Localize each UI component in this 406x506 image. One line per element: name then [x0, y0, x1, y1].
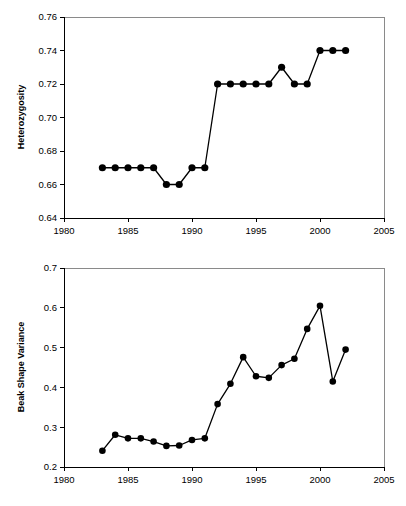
- x-tick-label: 2005: [373, 225, 394, 236]
- data-point-marker: [189, 437, 196, 444]
- y-tick-label: 0.74: [39, 45, 58, 56]
- x-tick-label: 1995: [245, 474, 266, 485]
- data-point-marker: [227, 381, 234, 388]
- y-axis-title-beak-shape-variance: Beak Shape Variance: [16, 322, 26, 413]
- data-point-marker: [201, 164, 208, 171]
- data-point-marker: [278, 362, 285, 369]
- y-tick-label: 0.3: [44, 422, 57, 433]
- data-point-marker: [252, 80, 259, 87]
- data-point-marker: [150, 438, 157, 445]
- data-point-marker: [112, 431, 119, 438]
- figure-two-panel-timeseries: 0.640.660.680.700.720.740.76 19801985199…: [0, 0, 406, 506]
- x-tick-label: 1990: [181, 225, 202, 236]
- series-markers-heterozygosity: [99, 47, 349, 188]
- series-line-heterozygosity: [102, 51, 345, 185]
- x-tick-label: 2000: [309, 225, 330, 236]
- data-point-marker: [112, 164, 119, 171]
- data-point-marker: [99, 447, 106, 454]
- y-tick-label: 0.66: [39, 179, 58, 190]
- chart-panel-heterozygosity: 0.640.660.680.700.720.740.76 19801985199…: [0, 0, 406, 250]
- data-point-marker: [176, 442, 183, 449]
- data-point-marker: [342, 47, 349, 54]
- beak-shape-variance-svg: 0.20.30.40.50.60.7 198019851990199520002…: [0, 255, 406, 506]
- data-point-marker: [240, 80, 247, 87]
- data-point-marker: [176, 181, 183, 188]
- y-tick-label: 0.68: [39, 145, 58, 156]
- data-point-marker: [227, 80, 234, 87]
- series-markers-beak-shape-variance: [99, 303, 349, 454]
- data-point-marker: [316, 47, 323, 54]
- y-axis-title-heterozygosity: Heterozygosity: [16, 85, 26, 150]
- y-tick-label: 0.70: [39, 112, 58, 123]
- x-tick-label: 1995: [245, 225, 266, 236]
- data-point-marker: [329, 47, 336, 54]
- y-tick-label: 0.5: [44, 342, 57, 353]
- y-tick-group-bottom: 0.20.30.40.50.60.7: [44, 262, 64, 472]
- y-tick-label: 0.72: [39, 78, 58, 89]
- data-point-marker: [265, 80, 272, 87]
- data-point-marker: [214, 80, 221, 87]
- y-tick-label: 0.6: [44, 302, 57, 313]
- x-tick-group-top: 198019851990199520002005: [53, 218, 394, 236]
- y-tick-label: 0.7: [44, 262, 57, 273]
- caption-strip: [0, 494, 406, 506]
- x-tick-label: 2000: [309, 474, 330, 485]
- x-tick-label: 1990: [181, 474, 202, 485]
- data-point-marker: [304, 80, 311, 87]
- data-point-marker: [163, 443, 170, 450]
- data-point-marker: [240, 354, 247, 361]
- data-point-marker: [317, 303, 324, 310]
- data-point-marker: [342, 346, 349, 353]
- data-point-marker: [99, 164, 106, 171]
- x-tick-label: 1980: [53, 474, 74, 485]
- data-point-marker: [150, 164, 157, 171]
- data-point-marker: [137, 164, 144, 171]
- data-point-marker: [163, 181, 170, 188]
- data-point-marker: [188, 164, 195, 171]
- x-tick-label: 1980: [53, 225, 74, 236]
- data-point-marker: [253, 373, 260, 380]
- y-tick-label: 0.76: [39, 11, 58, 22]
- data-point-marker: [138, 435, 145, 442]
- data-point-marker: [291, 80, 298, 87]
- x-tick-group-bottom: 198019851990199520002005: [53, 467, 394, 485]
- x-tick-label: 2005: [373, 474, 394, 485]
- data-point-marker: [214, 401, 221, 408]
- y-tick-label: 0.64: [39, 212, 58, 223]
- data-point-marker: [304, 326, 311, 333]
- data-point-marker: [266, 375, 273, 382]
- y-tick-label: 0.2: [44, 461, 57, 472]
- heterozygosity-svg: 0.640.660.680.700.720.740.76 19801985199…: [0, 0, 406, 250]
- data-point-marker: [291, 355, 298, 362]
- x-tick-label: 1985: [117, 474, 138, 485]
- y-tick-label: 0.4: [44, 382, 57, 393]
- data-point-marker: [202, 435, 209, 442]
- y-tick-group-top: 0.640.660.680.700.720.740.76: [39, 11, 65, 223]
- data-point-marker: [330, 378, 337, 385]
- data-point-marker: [278, 64, 285, 71]
- data-point-marker: [125, 435, 132, 442]
- chart-panel-beak-shape-variance: 0.20.30.40.50.60.7 198019851990199520002…: [0, 255, 406, 506]
- data-point-marker: [124, 164, 131, 171]
- plot-frame-top: [64, 17, 384, 218]
- plot-frame-bottom: [64, 268, 384, 467]
- x-tick-label: 1985: [117, 225, 138, 236]
